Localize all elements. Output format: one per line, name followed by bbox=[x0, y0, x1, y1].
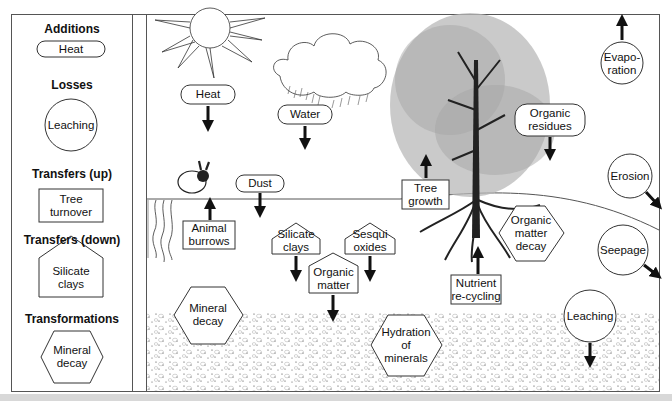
label-organic-matter: Organicmatter bbox=[309, 265, 358, 293]
seepage-arrow bbox=[644, 265, 657, 275]
earthworm-burrows-icon bbox=[148, 200, 172, 262]
label-water: Water bbox=[278, 105, 332, 124]
label-tree-growth: Treegrowth bbox=[402, 180, 449, 209]
label-hydration-of-minerals: Hydrationofminerals bbox=[376, 324, 436, 366]
label-evaporation: Evapo-ration bbox=[603, 50, 641, 78]
label-sesqui-oxides: Sesquioxides bbox=[345, 228, 395, 254]
erosion-arrow bbox=[646, 192, 658, 205]
label-heat: Heat bbox=[181, 85, 235, 104]
label-erosion: Erosion bbox=[608, 168, 652, 184]
label-organic-matter-decay: Organicmatterdecay bbox=[505, 212, 557, 254]
legend-heading-transfers-up: Transfers (up) bbox=[12, 167, 132, 181]
legend-label-mineral-decay: Mineral decay bbox=[50, 340, 94, 374]
rain-cloud-icon bbox=[274, 34, 387, 108]
label-organic-residues: Organic residues bbox=[515, 104, 585, 136]
legend-label-tree-turnover: Tree turnover bbox=[39, 189, 103, 222]
label-animal-burrows: Animalburrows bbox=[183, 221, 235, 249]
legend-label-leaching: Leaching bbox=[45, 112, 97, 138]
sun-icon bbox=[155, 8, 265, 78]
legend-label-silicate-clays: Silicate clays bbox=[45, 262, 97, 294]
legend-heading-additions: Additions bbox=[12, 22, 132, 36]
label-silicate-clays: Silicateclays bbox=[272, 228, 320, 254]
label-mineral-decay: Mineraldecay bbox=[182, 300, 234, 330]
legend-heading-losses: Losses bbox=[12, 78, 132, 92]
legend-heading-transformations: Transformations bbox=[12, 312, 132, 326]
label-seepage: Seepage bbox=[598, 242, 648, 258]
rabbit-icon bbox=[178, 161, 209, 193]
label-leaching: Leaching bbox=[564, 308, 616, 324]
label-nutrient-recycling: Nutrientre-cycling bbox=[451, 275, 501, 304]
legend-heading-transfers-down: Transfers (down) bbox=[12, 233, 132, 247]
label-dust: Dust bbox=[236, 175, 284, 192]
legend-label-heat: Heat bbox=[37, 41, 105, 57]
